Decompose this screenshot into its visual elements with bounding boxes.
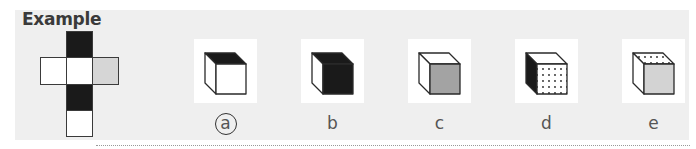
cube-front-face — [644, 64, 674, 94]
cube-option-c[interactable] — [419, 53, 460, 94]
cube-option-b[interactable] — [312, 53, 353, 94]
cube-front-face — [430, 64, 460, 94]
cube-option-d[interactable] — [526, 53, 567, 94]
cube-front-face — [216, 64, 246, 94]
cube-option-e[interactable] — [633, 53, 674, 94]
cube-front-face — [323, 64, 353, 94]
cube-option-a[interactable] — [205, 53, 246, 94]
cube-front-face — [537, 64, 567, 94]
cube-options — [0, 0, 696, 149]
